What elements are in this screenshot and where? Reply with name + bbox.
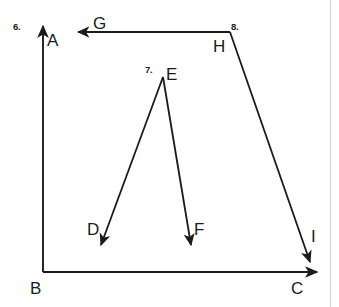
- vertex-label-e: E: [166, 66, 177, 83]
- vertex-label-a: A: [47, 32, 58, 49]
- problem-number-7: 7.: [145, 65, 153, 75]
- vertex-label-b: B: [30, 280, 41, 297]
- ray-e-to-d: [101, 77, 163, 245]
- vertex-label-h: H: [213, 38, 225, 55]
- vertex-label-c: C: [291, 280, 303, 297]
- vertex-label-g: G: [93, 15, 106, 32]
- vertex-label-d: D: [87, 221, 99, 238]
- vertex-label-i: I: [311, 228, 316, 245]
- ray-e-to-f: [163, 77, 191, 245]
- diagram-figure: A B C D E F G H I 6. 7. 8.: [0, 0, 339, 307]
- problem-number-8: 8.: [231, 22, 239, 32]
- problem-number-6: 6.: [13, 22, 21, 32]
- ray-h-to-i: [230, 32, 310, 262]
- vertex-label-f: F: [194, 221, 204, 238]
- page-edge-divider: [330, 0, 339, 307]
